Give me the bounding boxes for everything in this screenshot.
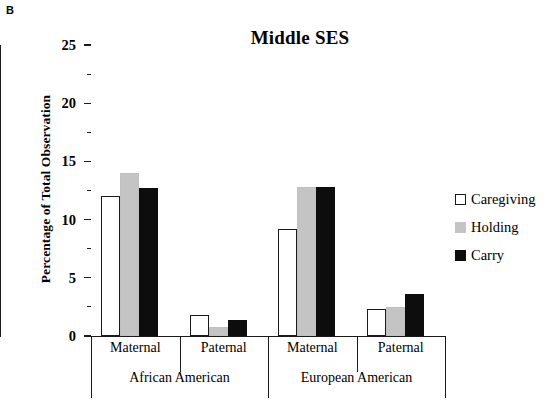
bar-caregiving-1 (190, 315, 209, 336)
x-tick-label: Paternal (357, 341, 446, 355)
legend-item-carry: Carry (455, 241, 535, 269)
bar-holding-0 (120, 173, 139, 336)
y-tick-major (84, 161, 91, 162)
x-axis-group-label: African American (91, 371, 268, 385)
y-tick-major (84, 44, 91, 45)
legend-swatch-carry-icon (455, 250, 466, 261)
legend-label: Carry (471, 248, 504, 263)
panel-label: B (6, 5, 14, 16)
bar-carry-3 (405, 294, 424, 336)
chart-legend: CaregivingHoldingCarry (455, 185, 535, 269)
y-tick-label: 20 (44, 96, 76, 111)
x-tick-label: Maternal (268, 341, 357, 355)
bar-holding-3 (386, 307, 405, 336)
bar-holding-1 (209, 327, 228, 336)
y-axis-line (0, 45, 1, 337)
x-tick-label: Maternal (91, 341, 180, 355)
y-tick-label: 5 (44, 271, 76, 286)
bar-caregiving-0 (101, 196, 120, 336)
x-axis-group-separator (445, 336, 446, 398)
bar-carry-2 (316, 187, 335, 336)
bar-carry-0 (139, 188, 158, 336)
y-tick-label: 0 (44, 329, 76, 344)
x-axis-group-label: European American (268, 371, 445, 385)
legend-label: Holding (471, 220, 519, 235)
bar-caregiving-3 (367, 309, 386, 336)
y-tick-label: 15 (44, 154, 76, 169)
y-tick-major (84, 277, 91, 278)
legend-item-holding: Holding (455, 213, 535, 241)
y-tick-major (84, 335, 91, 336)
legend-label: Caregiving (471, 192, 535, 207)
legend-swatch-caregiving-icon (455, 194, 466, 205)
bar-caregiving-2 (278, 229, 297, 336)
legend-item-caregiving: Caregiving (455, 185, 535, 213)
y-tick-major (84, 103, 91, 104)
bar-holding-2 (297, 187, 316, 336)
bar-carry-1 (228, 320, 247, 336)
x-tick-label: Paternal (180, 341, 269, 355)
y-tick-label: 25 (44, 38, 76, 53)
y-tick-major (84, 219, 91, 220)
plot-area (91, 45, 445, 336)
legend-swatch-holding-icon (455, 222, 466, 233)
y-tick-label: 10 (44, 213, 76, 228)
